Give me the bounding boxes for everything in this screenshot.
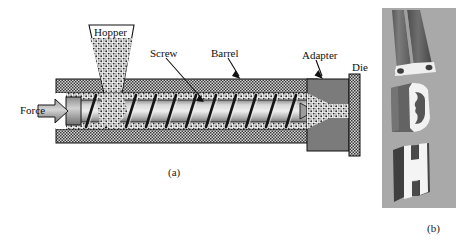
panel-b-caption: (b) bbox=[427, 222, 440, 234]
die-label: Die bbox=[352, 61, 368, 73]
c-channel-profile bbox=[391, 83, 430, 132]
barrel-label: Barrel bbox=[211, 47, 238, 59]
screw-label: Screw bbox=[150, 47, 178, 59]
hopper-label: Hopper bbox=[93, 27, 128, 38]
h-section-profile bbox=[393, 143, 430, 202]
panel-a-caption: (a) bbox=[168, 166, 180, 178]
adapter bbox=[307, 79, 349, 151]
barrel-bottom-wall bbox=[56, 129, 318, 143]
extrusion-figure: Force Hopper Screw Barrel Adapter Die (a… bbox=[0, 0, 471, 245]
die bbox=[349, 74, 360, 156]
force-label: Force bbox=[20, 104, 45, 116]
panel-b-photo bbox=[382, 8, 456, 208]
panel-a-schematic bbox=[38, 25, 360, 156]
adapter-label: Adapter bbox=[302, 49, 337, 61]
figure-canvas bbox=[0, 0, 471, 245]
